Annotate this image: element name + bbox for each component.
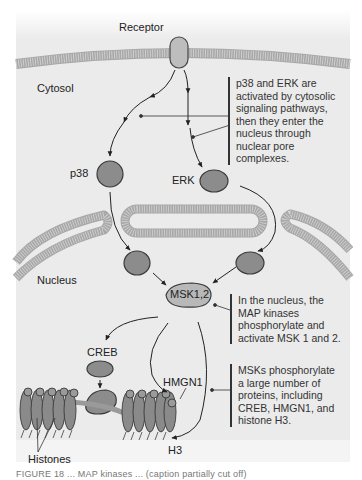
note-line: p38 and ERK are bbox=[236, 77, 335, 90]
cytosol-label: Cytosol bbox=[37, 82, 74, 95]
note-line: activated by cytosolic bbox=[236, 90, 335, 103]
erk-label: ERK bbox=[172, 174, 195, 187]
histones-label: Histones bbox=[28, 453, 71, 466]
creb-label: CREB bbox=[87, 346, 118, 359]
note-line: proteins, including bbox=[238, 389, 335, 402]
erk-protein bbox=[200, 170, 228, 192]
receptor-label: Receptor bbox=[119, 21, 164, 34]
note-line: then they enter the bbox=[236, 115, 335, 128]
note-line: a large number of bbox=[238, 377, 335, 390]
note-line: CREB, HMGN1, and bbox=[238, 402, 335, 415]
note-line: nuclear pore bbox=[236, 140, 335, 153]
p38-nuclear-protein bbox=[124, 251, 150, 275]
note-line: histone H3. bbox=[238, 414, 335, 427]
cytosol-note: p38 and ERK are activated by cytosolic s… bbox=[228, 77, 335, 165]
hmgn1-protein bbox=[168, 399, 176, 407]
note-line: activate MSK 1 and 2. bbox=[238, 332, 341, 345]
figure-caption: FIGURE 18 ... MAP kinases ... (caption p… bbox=[16, 469, 247, 479]
note-line: MAP kinases bbox=[238, 307, 341, 320]
note-line: phosphorylate and bbox=[238, 319, 341, 332]
erk-nuclear-protein bbox=[236, 252, 264, 274]
creb-protein bbox=[87, 361, 113, 377]
note-line: complexes. bbox=[236, 152, 335, 165]
hmgn1-label: HMGN1 bbox=[163, 376, 203, 389]
nucleus-note: In the nucleus, the MAP kinases phosphor… bbox=[230, 294, 341, 344]
receptor-icon bbox=[170, 37, 188, 68]
nucleus-label: Nucleus bbox=[37, 274, 77, 287]
substrate-note: MSKs phosphorylate a large number of pro… bbox=[230, 364, 335, 427]
p38-label: p38 bbox=[70, 167, 88, 180]
note-line: nucleus through bbox=[236, 127, 335, 140]
note-line: In the nucleus, the bbox=[238, 294, 341, 307]
msk-label: MSK1,2 bbox=[170, 288, 209, 301]
h3-label: H3 bbox=[168, 444, 182, 457]
p38-protein bbox=[97, 161, 123, 187]
note-line: signaling pathways, bbox=[236, 102, 335, 115]
note-line: MSKs phosphorylate bbox=[238, 364, 335, 377]
